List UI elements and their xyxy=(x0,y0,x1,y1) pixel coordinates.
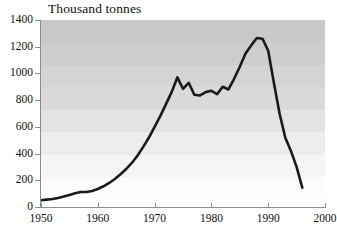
y-tick-label-600: 600 xyxy=(0,121,33,133)
y-tick-0 xyxy=(35,207,40,208)
plot-area xyxy=(41,20,325,207)
y-tick-label-1400: 1400 xyxy=(0,14,33,26)
x-tick-label-1980: 1980 xyxy=(188,212,234,224)
data-series-line xyxy=(41,20,325,207)
chart-title: Thousand tonnes xyxy=(48,1,141,17)
y-axis-line xyxy=(40,20,41,208)
y-tick-1000 xyxy=(35,73,40,74)
x-axis-line xyxy=(40,207,326,208)
x-tick-1960 xyxy=(98,203,99,208)
y-tick-label-200: 200 xyxy=(0,174,33,186)
x-tick-label-1990: 1990 xyxy=(245,212,291,224)
x-tick-2000 xyxy=(325,203,326,208)
y-tick-label-1200: 1200 xyxy=(0,41,33,53)
y-tick-label-0: 0 xyxy=(0,201,33,213)
y-tick-label-1000: 1000 xyxy=(0,67,33,79)
x-tick-label-1960: 1960 xyxy=(75,212,121,224)
x-tick-1950 xyxy=(41,203,42,208)
x-tick-label-1970: 1970 xyxy=(132,212,178,224)
x-tick-label-2000: 2000 xyxy=(302,212,337,224)
line-chart: Thousand tonnes 140012001000800600400200… xyxy=(0,0,337,239)
y-tick-label-800: 800 xyxy=(0,94,33,106)
x-tick-1980 xyxy=(211,203,212,208)
y-tick-1200 xyxy=(35,47,40,48)
x-tick-1970 xyxy=(155,203,156,208)
y-tick-800 xyxy=(35,100,40,101)
x-tick-label-1950: 1950 xyxy=(18,212,64,224)
y-tick-1400 xyxy=(35,20,40,21)
x-tick-1990 xyxy=(268,203,269,208)
y-tick-200 xyxy=(35,180,40,181)
y-tick-400 xyxy=(35,154,40,155)
y-tick-label-400: 400 xyxy=(0,148,33,160)
y-tick-600 xyxy=(35,127,40,128)
